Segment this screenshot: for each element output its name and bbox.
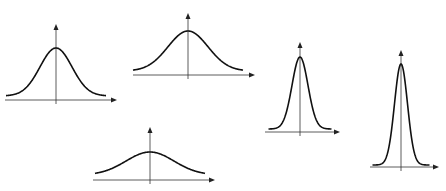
bell-curve-plot <box>265 42 340 136</box>
x-axis-arrow-icon <box>334 130 340 135</box>
bell-curve-plot <box>133 13 255 79</box>
x-axis-arrow-icon <box>249 73 255 78</box>
x-axis-arrow-icon <box>111 98 117 103</box>
bell-curve-plot <box>93 127 215 184</box>
y-axis-arrow-icon <box>186 13 191 19</box>
y-axis-arrow-icon <box>148 127 153 133</box>
bell-curve-plot <box>370 50 439 171</box>
x-axis-arrow-icon <box>433 165 439 170</box>
bell-curve-plot <box>5 24 117 104</box>
y-axis-arrow-icon <box>54 24 59 30</box>
y-axis-arrow-icon <box>399 50 404 56</box>
y-axis-arrow-icon <box>298 42 303 48</box>
x-axis-arrow-icon <box>209 178 215 183</box>
bell-curves-diagram <box>0 0 446 191</box>
